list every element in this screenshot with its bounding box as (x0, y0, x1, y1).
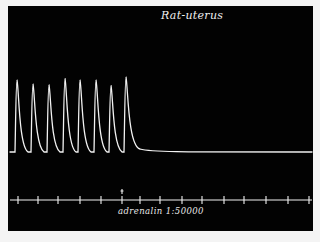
chart-title: Rat-uterus (161, 9, 223, 22)
adrenalin-annotation: adrenalin 1:50000 (118, 206, 204, 216)
drug-addition-marker-icon (121, 189, 124, 194)
trace-line (10, 77, 312, 152)
